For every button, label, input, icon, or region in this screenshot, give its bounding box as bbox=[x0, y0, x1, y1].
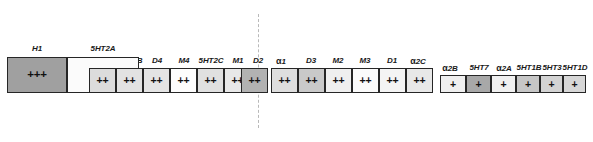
receptor-label-text: M1 bbox=[233, 56, 244, 65]
receptor-label-text: 2A bbox=[502, 64, 512, 73]
affinity-symbol: ++ bbox=[124, 75, 136, 86]
receptor-box-alpha2c: ++ bbox=[406, 68, 433, 93]
receptor-label-text: 5HT2A bbox=[91, 44, 116, 53]
affinity-symbol: + bbox=[572, 79, 578, 90]
receptor-label-text: 5HT1B bbox=[517, 63, 542, 72]
receptor-label-m1: M1 bbox=[233, 56, 244, 65]
clipped-caption-strip bbox=[0, 136, 593, 142]
receptor-label-text: 5HT3 bbox=[542, 63, 561, 72]
receptor-label-d4: D4 bbox=[152, 56, 162, 65]
affinity-symbol: ++ bbox=[333, 75, 345, 86]
affinity-symbol: ++ bbox=[205, 75, 217, 86]
affinity-symbol: ++ bbox=[360, 75, 372, 86]
receptor-label-5ht1d: 5HT1D bbox=[563, 63, 588, 72]
receptor-label-text: D1 bbox=[387, 56, 397, 65]
receptor-box-m4: ++ bbox=[170, 68, 197, 93]
receptor-label-d1: D1 bbox=[387, 56, 397, 65]
receptor-box-alpha1: ++ bbox=[271, 68, 298, 93]
receptor-label-text: D3 bbox=[306, 56, 316, 65]
receptor-box-5ht2c: ++ bbox=[197, 68, 224, 93]
receptor-label-text: 5HT1D bbox=[563, 63, 588, 72]
affinity-symbol: ++ bbox=[279, 75, 291, 86]
receptor-label-text: 1 bbox=[282, 57, 286, 66]
affinity-symbol: ++ bbox=[97, 75, 109, 86]
receptor-label-text: D4 bbox=[152, 56, 162, 65]
receptor-box-5ht3: + bbox=[540, 75, 563, 93]
receptor-label-d3: D3 bbox=[306, 56, 316, 65]
receptor-label-alpha2c: α2C bbox=[410, 56, 425, 66]
affinity-symbol: ++ bbox=[306, 75, 318, 86]
receptor-label-text: M4 bbox=[179, 56, 190, 65]
receptor-label-text: 2B bbox=[448, 64, 458, 73]
receptor-label-h1: H1 bbox=[32, 44, 42, 53]
receptor-label-text: 5HT2C bbox=[199, 56, 224, 65]
receptor-box-d3: ++ bbox=[298, 68, 325, 93]
affinity-symbol: ++ bbox=[387, 75, 399, 86]
affinity-symbol: ++ bbox=[151, 75, 163, 86]
receptor-box-h1: +++ bbox=[7, 57, 67, 93]
receptor-label-alpha2a: α2A bbox=[496, 63, 511, 73]
receptor-label-text: H1 bbox=[32, 44, 42, 53]
receptor-label-text: M3 bbox=[360, 56, 371, 65]
affinity-symbol: + bbox=[549, 79, 555, 90]
affinity-symbol: ++ bbox=[249, 75, 261, 86]
receptor-label-alpha2b: α2B bbox=[442, 63, 457, 73]
receptor-box-alpha2b: + bbox=[440, 75, 466, 93]
receptor-label-5ht3: 5HT3 bbox=[542, 63, 561, 72]
receptor-box-5ht1b: + bbox=[516, 75, 540, 93]
receptor-box-d4: ++ bbox=[143, 68, 170, 93]
receptor-box-m3: ++ bbox=[352, 68, 379, 93]
receptor-label-m4: M4 bbox=[179, 56, 190, 65]
affinity-symbol: + bbox=[450, 79, 456, 90]
receptor-box-d1: ++ bbox=[379, 68, 406, 93]
receptor-label-5ht2c: 5HT2C bbox=[199, 56, 224, 65]
receptor-box-5ht6: ++ bbox=[89, 68, 116, 93]
receptor-affinity-figure: ++++++++++++++++++++++++++++++++++++++ H… bbox=[0, 0, 593, 142]
receptor-label-text: 5HT7 bbox=[469, 63, 488, 72]
affinity-symbol: ++ bbox=[178, 75, 190, 86]
receptor-box-m2: ++ bbox=[325, 68, 352, 93]
affinity-symbol: ++ bbox=[414, 75, 426, 86]
receptor-label-5ht1b: 5HT1B bbox=[517, 63, 542, 72]
receptor-label-5ht7: 5HT7 bbox=[469, 63, 488, 72]
affinity-symbol: + bbox=[501, 79, 507, 90]
receptor-label-text: D2 bbox=[253, 56, 263, 65]
receptor-label-alpha1: α1 bbox=[276, 56, 286, 66]
affinity-symbol: +++ bbox=[27, 69, 47, 81]
receptor-label-5ht2a: 5HT2A bbox=[91, 44, 116, 53]
receptor-label-m3: M3 bbox=[360, 56, 371, 65]
receptor-box-5ht7: + bbox=[466, 75, 491, 93]
affinity-symbol: + bbox=[476, 79, 482, 90]
receptor-label-m2: M2 bbox=[333, 56, 344, 65]
receptor-box-5ht2b: ++ bbox=[116, 68, 143, 93]
receptor-label-d2: D2 bbox=[253, 56, 263, 65]
receptor-label-text: M2 bbox=[333, 56, 344, 65]
affinity-symbol: + bbox=[525, 79, 531, 90]
receptor-box-d2: ++ bbox=[241, 68, 268, 93]
receptor-box-alpha2a: + bbox=[491, 75, 516, 93]
receptor-label-text: 2C bbox=[416, 57, 426, 66]
receptor-box-5ht1d: + bbox=[563, 75, 586, 93]
